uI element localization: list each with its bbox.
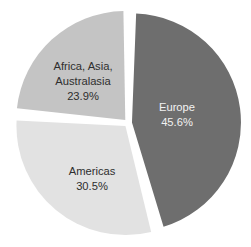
slice-label-africa-value: 23.9% [67,90,99,102]
slice-label-africa-line2: Australasia [55,75,111,87]
slice-label-americas-value: 30.5% [76,180,108,192]
slice-label-africa-line1: Africa, Asia, [53,60,112,72]
slice-label-europe-value: 45.6% [161,116,193,128]
pie-chart: Europe 45.6% Americas 30.5% Africa, Asia… [0,0,251,247]
slice-label-europe-name: Europe [159,101,195,113]
pie-slice-americas[interactable] [16,120,151,235]
pie-chart-svg: Europe 45.6% Americas 30.5% Africa, Asia… [0,0,251,247]
slice-label-americas-name: Americas [69,165,116,177]
